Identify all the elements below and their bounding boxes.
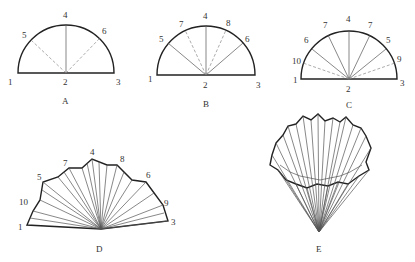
label-2: 2 bbox=[63, 77, 68, 87]
label-3: 3 bbox=[171, 217, 176, 227]
label-1: 1 bbox=[148, 74, 153, 84]
label-5: 5 bbox=[386, 35, 391, 45]
label-10: 10 bbox=[292, 56, 302, 66]
label-6: 6 bbox=[102, 26, 107, 36]
label-7: 7 bbox=[179, 19, 184, 29]
label-6: 6 bbox=[245, 34, 250, 44]
folding-diagram: 1 2 3 4 5 6 A 1 2 3 4 5 6 7 8 B 1 2 3 bbox=[0, 0, 415, 262]
label-8: 8 bbox=[120, 154, 125, 164]
figure-a: 1 2 3 4 5 6 A bbox=[8, 10, 121, 106]
label-7: 7 bbox=[63, 158, 68, 168]
label-9: 9 bbox=[397, 54, 402, 64]
label-4: 4 bbox=[90, 147, 95, 157]
label-7-left: 7 bbox=[323, 20, 328, 30]
label-1: 1 bbox=[18, 222, 23, 232]
figure-b: 1 2 3 4 5 6 7 8 B bbox=[148, 11, 261, 109]
caption-b: B bbox=[203, 99, 209, 109]
figure-e: E bbox=[270, 114, 371, 254]
label-4: 4 bbox=[203, 11, 208, 21]
label-7-right: 7 bbox=[368, 20, 373, 30]
label-2: 2 bbox=[203, 80, 208, 90]
label-10: 10 bbox=[19, 197, 29, 207]
label-9: 9 bbox=[164, 198, 169, 208]
label-2: 2 bbox=[346, 84, 351, 94]
label-5: 5 bbox=[37, 172, 42, 182]
figure-d: 1 3 4 5 6 7 8 9 10 D bbox=[18, 147, 176, 254]
label-5: 5 bbox=[22, 30, 27, 40]
label-3: 3 bbox=[116, 77, 121, 87]
label-3: 3 bbox=[256, 80, 261, 90]
label-6: 6 bbox=[146, 170, 151, 180]
label-6: 6 bbox=[304, 35, 309, 45]
label-3: 3 bbox=[400, 78, 405, 88]
label-5: 5 bbox=[159, 34, 164, 44]
label-4: 4 bbox=[346, 14, 351, 24]
label-1: 1 bbox=[293, 75, 298, 85]
caption-a: A bbox=[62, 96, 69, 106]
caption-c: C bbox=[346, 100, 352, 110]
label-4: 4 bbox=[63, 10, 68, 20]
caption-e: E bbox=[316, 244, 322, 254]
label-8: 8 bbox=[226, 18, 231, 28]
label-1: 1 bbox=[8, 77, 13, 87]
figure-c: 1 2 3 4 7 7 6 5 10 9 C bbox=[292, 14, 405, 110]
caption-d: D bbox=[96, 244, 103, 254]
